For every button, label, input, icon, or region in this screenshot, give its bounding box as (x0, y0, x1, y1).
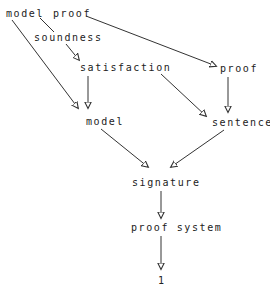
diagram-canvas: ··· ··· ····· ·· ····· model proof sound… (0, 0, 270, 291)
node-sentence: sentence (212, 118, 270, 128)
edge-sentence-to-signature (171, 130, 224, 167)
node-proof-right: proof (220, 64, 258, 74)
node-one: 1 (158, 276, 166, 286)
edge-satisfaction-to-sentence (161, 74, 206, 116)
node-model-mid: model (86, 117, 124, 127)
node-signature: signature (132, 178, 201, 188)
edge-soundness-to-satisfaction (66, 44, 79, 60)
edge-proof-to-proof (86, 16, 216, 66)
node-proof-top: proof (53, 9, 91, 19)
node-satisfaction: satisfaction (80, 63, 171, 73)
edges-layer (0, 0, 270, 291)
edge-model-to-signature (101, 129, 148, 167)
node-proof-system: proof system (131, 223, 222, 233)
node-soundness: soundness (34, 33, 103, 43)
node-model-top: model (6, 9, 44, 19)
edge-model-to-soundness (40, 18, 54, 32)
